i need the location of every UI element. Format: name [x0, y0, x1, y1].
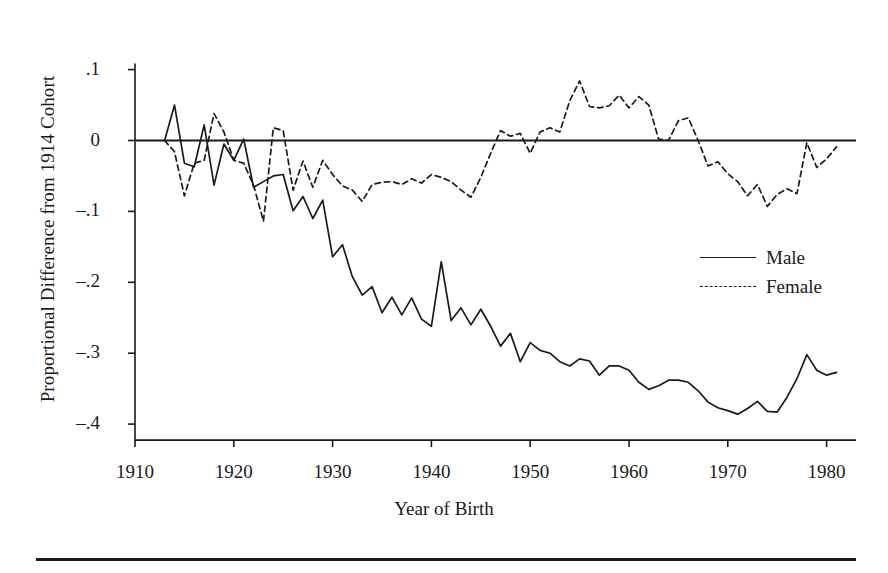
data-series-female-line — [165, 81, 837, 221]
y-axis-tick-label: –.4 — [54, 413, 100, 432]
y-axis-tick-label: –.2 — [54, 271, 100, 290]
legend: Male Female — [700, 243, 822, 301]
legend-item-female: Female — [700, 272, 822, 301]
legend-item-male: Male — [700, 243, 822, 272]
figure-chart: Proportional Difference from 1914 Cohort… — [0, 0, 888, 573]
x-axis-title: Year of Birth — [0, 498, 888, 520]
legend-line-dashed-icon — [700, 281, 756, 293]
x-axis-tick-label: 1940 — [391, 462, 471, 481]
y-axis-tick-label: .1 — [54, 59, 100, 78]
x-axis-tick-label: 1970 — [688, 462, 768, 481]
y-axis-tick-labels: .10–.1–.2–.3–.4 — [48, 0, 100, 573]
x-axis-tick-label: 1960 — [589, 462, 669, 481]
y-axis-tick-label: –.1 — [54, 200, 100, 219]
y-axis-tick-label: –.3 — [54, 342, 100, 361]
legend-line-solid-icon — [700, 252, 756, 264]
y-axis-tick-label: 0 — [54, 130, 100, 149]
x-axis-tick-label: 1950 — [490, 462, 570, 481]
x-axis-tick-label: 1980 — [787, 462, 867, 481]
x-axis-tick-label: 1910 — [95, 462, 175, 481]
legend-label-male: Male — [766, 247, 805, 269]
legend-label-female: Female — [766, 276, 822, 298]
x-axis-tick-label: 1930 — [293, 462, 373, 481]
bottom-divider-rule — [36, 558, 856, 561]
x-axis-tick-label: 1920 — [194, 462, 274, 481]
